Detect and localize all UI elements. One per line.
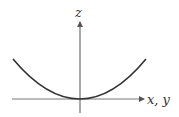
xy-axis-label: x, y — [147, 93, 170, 106]
z-axis-label: z — [75, 6, 82, 19]
parabola-diagram: z x, y — [0, 0, 179, 117]
